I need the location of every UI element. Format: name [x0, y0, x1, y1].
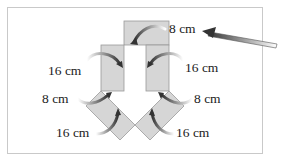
left-bar [101, 45, 124, 91]
right-bar [146, 45, 169, 91]
label-top-8cm: 8 cm [169, 22, 196, 36]
top-square [124, 21, 169, 45]
left-tilted-bar [86, 91, 135, 140]
label-right-lower-8cm: 8 cm [194, 92, 221, 106]
label-right-middle-16cm: 16 cm [185, 61, 218, 75]
label-right-bottom-16cm: 16 cm [176, 126, 209, 140]
label-left-lower-8cm: 8 cm [42, 92, 69, 106]
pointer-arrow-icon [202, 27, 277, 48]
curved-arrow-icon [78, 26, 192, 134]
label-left-middle-16cm: 16 cm [48, 64, 81, 78]
shape-diagram [0, 0, 282, 162]
label-left-bottom-16cm: 16 cm [56, 126, 89, 140]
